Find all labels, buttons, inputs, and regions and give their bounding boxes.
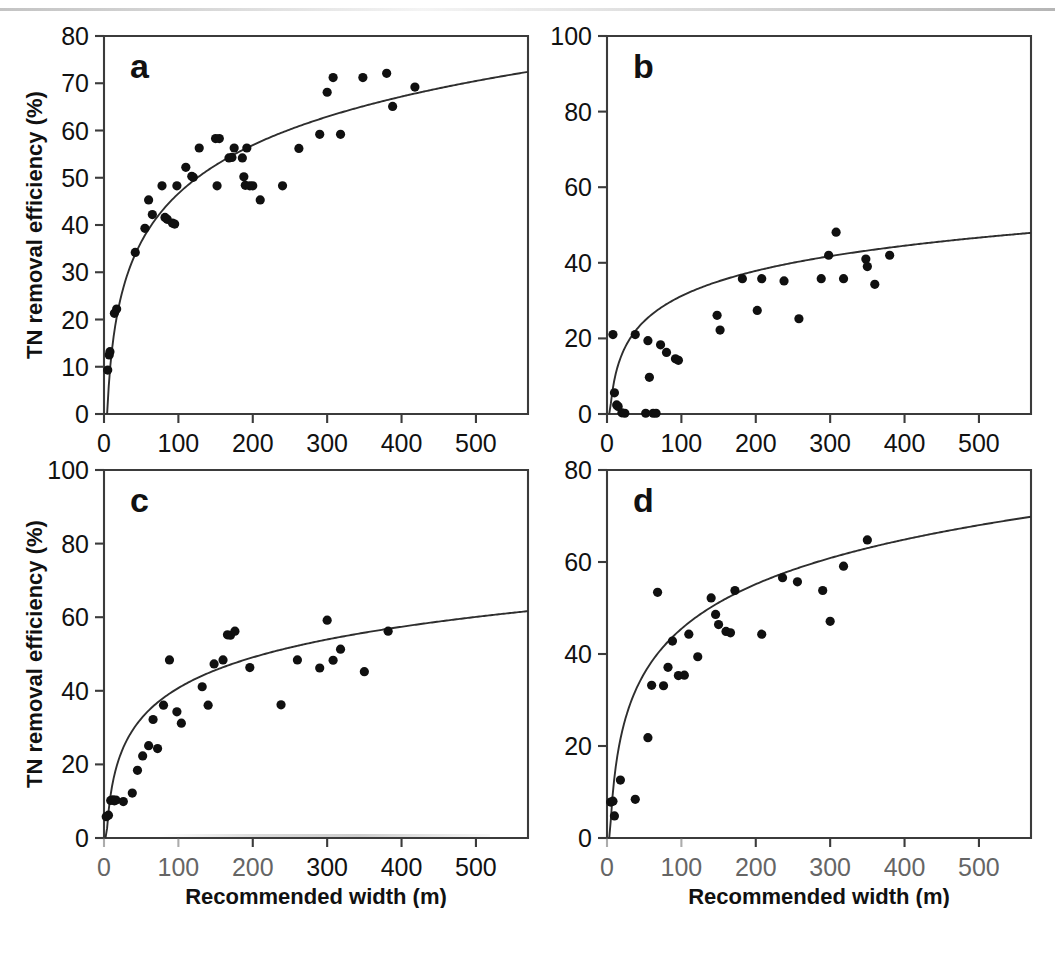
scatter-group-a (103, 69, 419, 375)
y-ticklabel-d-60: 60 (564, 548, 592, 576)
panel-letter-a: a (130, 47, 150, 85)
data-point (863, 262, 872, 271)
data-point (643, 336, 652, 345)
data-point (738, 274, 747, 283)
data-point (177, 719, 186, 728)
data-point (616, 775, 625, 784)
y-ticklabel-d-80: 80 (564, 456, 592, 484)
data-point (726, 628, 735, 637)
data-point (358, 73, 367, 82)
data-point (832, 228, 841, 237)
data-point (256, 195, 265, 204)
data-point (645, 373, 654, 382)
data-point (360, 667, 369, 676)
y-ticklabel-b-0: 0 (578, 400, 592, 428)
x-ticklabel-d-200: 200 (735, 853, 777, 881)
plot-frame-b (607, 36, 1031, 414)
y-ticklabel-a-80: 80 (61, 22, 89, 50)
data-point (663, 663, 672, 672)
plot-frame-d (607, 470, 1031, 838)
plot-area-a: 010203040506070800100200300400500aTN rem… (14, 22, 542, 484)
panel-letter-c: c (130, 481, 149, 519)
data-point (647, 681, 656, 690)
figure-root: 010203040506070800100200300400500aTN rem… (0, 0, 1055, 956)
x-ticklabel-c-100: 100 (158, 853, 200, 881)
panel-letter-d: d (633, 481, 654, 519)
data-point (148, 210, 157, 219)
plot-area-c: 0204060801000100200300400500cTN removal … (14, 456, 542, 908)
data-point (410, 82, 419, 91)
data-point (651, 409, 660, 418)
x-ticklabel-a-100: 100 (158, 429, 200, 457)
data-point (133, 766, 142, 775)
x-ticklabel-d-500: 500 (958, 853, 1000, 881)
panel-letter-b: b (633, 47, 654, 85)
data-point (181, 163, 190, 172)
data-point (608, 330, 617, 339)
data-point (189, 173, 198, 182)
data-point (757, 274, 766, 283)
scatter-group-d (606, 535, 872, 820)
x-ticklabel-c-0: 0 (97, 853, 111, 881)
data-point (753, 306, 762, 315)
x-ticklabel-c-500: 500 (455, 853, 497, 881)
data-point (631, 795, 640, 804)
fit-curve-b (609, 233, 1031, 414)
x-axis-title-d: Recommended width (m) (688, 884, 950, 908)
data-point (112, 305, 121, 314)
y-ticklabel-b-60: 60 (564, 173, 592, 201)
y-ticklabel-c-100: 100 (47, 456, 89, 484)
data-point (329, 73, 338, 82)
data-point (336, 130, 345, 139)
x-ticklabel-c-200: 200 (232, 853, 274, 881)
x-ticklabel-d-0: 0 (600, 853, 614, 881)
y-ticklabel-a-30: 30 (61, 258, 89, 286)
data-point (278, 181, 287, 190)
data-point (839, 274, 848, 283)
data-point (794, 314, 803, 323)
data-point (294, 144, 303, 153)
data-point (714, 620, 723, 629)
x-ticklabel-a-500: 500 (455, 429, 497, 457)
data-point (684, 630, 693, 639)
y-ticklabel-c-0: 0 (75, 824, 89, 852)
y-ticklabel-c-60: 60 (61, 603, 89, 631)
plot-area-b: 0204060801000100200300400500b (517, 22, 1045, 484)
data-point (140, 224, 149, 233)
y-ticklabel-b-80: 80 (564, 98, 592, 126)
y-ticklabel-b-20: 20 (564, 324, 592, 352)
x-ticklabel-b-0: 0 (600, 429, 614, 457)
y-ticklabel-d-20: 20 (564, 732, 592, 760)
data-point (105, 347, 114, 356)
data-point (643, 733, 652, 742)
data-point (870, 280, 879, 289)
x-ticklabel-a-400: 400 (381, 429, 423, 457)
x-ticklabel-a-300: 300 (306, 429, 348, 457)
data-point (620, 409, 629, 418)
data-point (793, 577, 802, 586)
data-point (238, 153, 247, 162)
panel-d: 0204060800100200300400500dRecommended wi… (517, 456, 1045, 908)
y-ticklabel-a-20: 20 (61, 306, 89, 334)
scan-artifact-line (0, 8, 1055, 11)
data-point (315, 130, 324, 139)
x-ticklabel-d-400: 400 (884, 853, 926, 881)
data-point (218, 655, 227, 664)
data-point (323, 616, 332, 625)
data-point (680, 671, 689, 680)
data-point (610, 388, 619, 397)
x-ticklabel-b-400: 400 (884, 429, 926, 457)
data-point (712, 311, 721, 320)
data-point (165, 655, 174, 664)
plot-frame-c (104, 470, 528, 838)
data-point (209, 659, 218, 668)
data-point (144, 741, 153, 750)
fit-curve-a (105, 72, 528, 414)
data-point (610, 811, 619, 820)
panel-c: 0204060801000100200300400500cTN removal … (14, 456, 542, 908)
data-point (707, 593, 716, 602)
y-ticklabel-b-100: 100 (550, 22, 592, 50)
plot-area-d: 0204060800100200300400500dRecommended wi… (517, 456, 1045, 908)
scatter-group-b (608, 228, 894, 418)
data-point (711, 610, 720, 619)
